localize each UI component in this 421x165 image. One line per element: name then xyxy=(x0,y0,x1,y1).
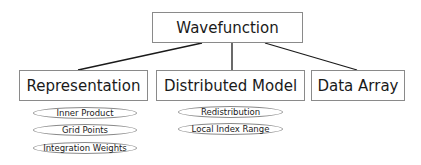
attribute-local-index-range: Local Index Range xyxy=(178,123,283,135)
connector-data-array xyxy=(265,43,357,70)
attribute-integration-weights: Integration Weights xyxy=(33,142,137,154)
attribute-redistribution: Redistribution xyxy=(178,106,283,118)
node-representation: Representation xyxy=(19,70,148,101)
attribute-inner-product: Inner Product xyxy=(33,107,137,119)
attribute-grid-points: Grid Points xyxy=(33,124,137,136)
node-data-array: Data Array xyxy=(311,70,405,101)
connector-representation xyxy=(78,43,202,70)
node-wavefunction: Wavefunction xyxy=(152,12,303,43)
node-label: Distributed Model xyxy=(164,77,297,95)
node-distributed-model: Distributed Model xyxy=(156,70,305,101)
node-label: Representation xyxy=(27,77,141,95)
node-label: Data Array xyxy=(318,77,399,95)
node-label: Wavefunction xyxy=(176,19,278,37)
